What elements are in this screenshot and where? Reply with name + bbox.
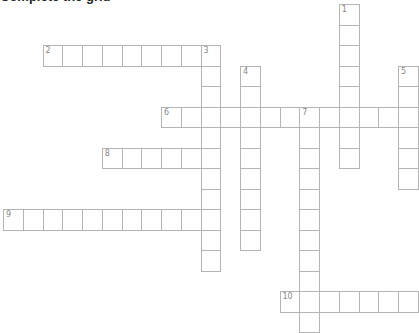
crossword-cell[interactable] [201, 250, 222, 272]
crossword-cell[interactable] [398, 107, 419, 129]
crossword-cell[interactable] [240, 209, 261, 231]
crossword-cell[interactable] [260, 107, 281, 129]
crossword-cell[interactable] [141, 148, 162, 170]
crossword-cell[interactable]: 3 [201, 45, 222, 67]
crossword-cell[interactable] [339, 148, 360, 170]
crossword-cell[interactable] [201, 168, 222, 190]
crossword-cell[interactable] [161, 148, 182, 170]
crossword-cell[interactable] [181, 148, 202, 170]
crossword-cell[interactable] [378, 107, 399, 129]
crossword-cell[interactable] [240, 189, 261, 211]
crossword-cell[interactable] [339, 66, 360, 88]
crossword-cell[interactable] [240, 86, 261, 108]
crossword-cell[interactable] [141, 45, 162, 67]
crossword-cell[interactable] [299, 168, 320, 190]
crossword-cell[interactable] [201, 107, 222, 129]
crossword-cell[interactable] [62, 209, 83, 231]
crossword-cell[interactable] [299, 209, 320, 231]
crossword-cell[interactable] [161, 209, 182, 231]
crossword-cell[interactable] [201, 230, 222, 252]
clue-number: 8 [105, 150, 110, 158]
crossword-cell[interactable] [220, 107, 241, 129]
clue-number: 6 [164, 109, 169, 117]
crossword-cell[interactable]: 8 [102, 148, 123, 170]
crossword-cell[interactable] [299, 189, 320, 211]
crossword-cell[interactable] [240, 230, 261, 252]
crossword-cell[interactable] [102, 209, 123, 231]
crossword-cell[interactable] [299, 148, 320, 170]
crossword-cell[interactable] [299, 230, 320, 252]
crossword-cell[interactable] [201, 189, 222, 211]
crossword-cell[interactable] [299, 127, 320, 149]
crossword-cell[interactable] [398, 127, 419, 149]
crossword-cell[interactable] [240, 107, 261, 129]
crossword-cell[interactable] [339, 291, 360, 313]
crossword-cell[interactable] [240, 168, 261, 190]
crossword-cell[interactable] [359, 291, 380, 313]
crossword-cell[interactable] [122, 148, 143, 170]
clue-number: 7 [302, 109, 307, 117]
crossword-cell[interactable] [339, 127, 360, 149]
crossword-cell[interactable] [181, 209, 202, 231]
crossword-cell[interactable]: 4 [240, 66, 261, 88]
crossword-cell[interactable] [201, 86, 222, 108]
crossword-cell[interactable] [319, 291, 340, 313]
clue-number: 4 [243, 68, 248, 76]
crossword-cell[interactable] [201, 66, 222, 88]
crossword-cell[interactable] [240, 127, 261, 149]
crossword-cell[interactable]: 5 [398, 66, 419, 88]
crossword-cell[interactable] [240, 148, 261, 170]
crossword-cell[interactable] [201, 209, 222, 231]
crossword-cell[interactable]: 7 [299, 107, 320, 129]
crossword-cell[interactable] [122, 209, 143, 231]
crossword-cell[interactable] [398, 86, 419, 108]
crossword-cell[interactable] [161, 45, 182, 67]
clue-number: 9 [6, 211, 11, 219]
crossword-cell[interactable] [299, 291, 320, 313]
clue-number: 3 [204, 47, 209, 55]
crossword-cell[interactable] [339, 86, 360, 108]
clue-number: 5 [401, 68, 406, 76]
crossword-cell[interactable] [43, 209, 64, 231]
crossword-cell[interactable] [359, 107, 380, 129]
crossword-cell[interactable]: 9 [3, 209, 24, 231]
crossword-cell[interactable] [141, 209, 162, 231]
crossword-cell[interactable] [339, 107, 360, 129]
crossword-cell[interactable] [299, 271, 320, 293]
crossword-cell[interactable] [398, 148, 419, 170]
crossword-cell[interactable] [23, 209, 44, 231]
crossword-cell[interactable] [339, 25, 360, 47]
crossword-cell[interactable] [299, 312, 320, 333]
crossword-cell[interactable] [102, 45, 123, 67]
crossword-cell[interactable] [62, 45, 83, 67]
crossword-cell[interactable]: 1 [339, 4, 360, 26]
crossword-cell[interactable]: 2 [43, 45, 64, 67]
crossword-cell[interactable] [398, 291, 419, 313]
crossword-cell[interactable] [201, 148, 222, 170]
crossword-cell[interactable] [398, 168, 419, 190]
clue-number: 2 [46, 47, 51, 55]
crossword-cell[interactable] [339, 45, 360, 67]
crossword-cell[interactable] [319, 107, 340, 129]
crossword-cell[interactable] [122, 45, 143, 67]
crossword-cell[interactable] [82, 45, 103, 67]
crossword-cell[interactable] [201, 127, 222, 149]
crossword-cell[interactable] [82, 209, 103, 231]
crossword-cell[interactable] [280, 107, 301, 129]
crossword-cell[interactable] [299, 250, 320, 272]
crossword-cell[interactable] [181, 45, 202, 67]
crossword-cell[interactable]: 10 [280, 291, 301, 313]
crossword-cell[interactable] [181, 107, 202, 129]
clue-number: 1 [342, 6, 347, 14]
crossword-cell[interactable] [378, 291, 399, 313]
clue-number: 10 [283, 293, 293, 301]
crossword-cell[interactable]: 6 [161, 107, 182, 129]
